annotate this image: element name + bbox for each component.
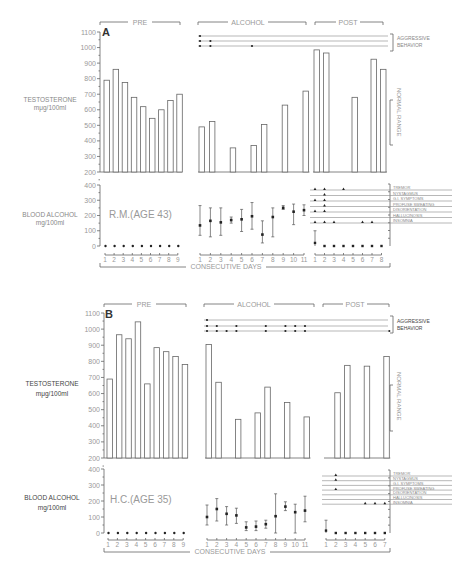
blood-alcohol-point	[159, 245, 161, 247]
testosterone-bar	[364, 366, 370, 458]
blood-alcohol-point	[335, 532, 337, 534]
day-tick-label: 10	[292, 541, 300, 548]
panel-letter-a: A	[102, 26, 110, 38]
testosterone-bars-b	[107, 322, 389, 458]
day-tick-label: 8	[380, 256, 384, 263]
symptom-label: PROFUSE SWEATING	[393, 202, 434, 207]
blood-alcohol-point	[230, 219, 233, 222]
blood-alcohol-point	[282, 207, 285, 210]
day-tick-label: 9	[176, 256, 180, 263]
day-tick-label: 2	[209, 256, 213, 263]
blood-alcohol-point	[235, 514, 238, 517]
day-tick-label: 4	[235, 541, 239, 548]
y-tick-label: 500	[84, 122, 96, 129]
blood-alcohol-point	[284, 505, 287, 508]
blood-alcohol-point	[325, 529, 327, 531]
y-tick-label: 400	[88, 466, 100, 473]
day-tick-label: 3	[225, 541, 229, 548]
day-tick-label: 1	[205, 541, 209, 548]
testosterone-unit-b: mμg/100ml	[36, 390, 69, 398]
day-tick-label: 7	[158, 256, 162, 263]
y-tick-label: 900	[84, 60, 96, 67]
testosterone-bars-a	[104, 50, 386, 172]
blood-alcohol-point	[177, 245, 179, 247]
testosterone-bar	[182, 365, 188, 458]
testosterone-bar	[163, 352, 169, 458]
y-tick-label: 300	[84, 197, 96, 204]
day-tick-label: 7	[261, 256, 265, 263]
aggressive-label-1-a: AGGRESSIVE	[397, 35, 430, 41]
symptom-marker	[314, 188, 317, 190]
testosterone-bar	[314, 50, 320, 172]
blood-alcohol-point	[255, 525, 258, 528]
day-tick-label: 6	[149, 256, 153, 263]
blood-alcohol-unit-a: mg/100ml	[36, 219, 65, 227]
blood-alcohol-point	[371, 245, 373, 247]
blood-alcohol-point	[136, 532, 138, 534]
testosterone-bar	[324, 53, 330, 172]
day-tick-label: 4	[354, 541, 358, 548]
symptom-marker	[383, 502, 386, 504]
day-tick-label: 2	[323, 256, 327, 263]
blood-alcohol-point	[199, 224, 202, 227]
blood-alcohol-point	[274, 515, 277, 518]
day-tick-label: 1	[103, 256, 107, 263]
testosterone-bar	[230, 148, 236, 172]
testosterone-bar	[126, 339, 132, 458]
y-tick-label: 600	[88, 390, 100, 397]
phase-alcohol-label: ALCOHOL	[231, 19, 265, 26]
blood-alcohol-point	[150, 245, 152, 247]
symptom-label: TREMOR	[393, 185, 410, 190]
panel-letter-b: B	[105, 308, 113, 320]
day-tick-label: 7	[264, 541, 268, 548]
y-tick-label: 200	[88, 498, 100, 505]
blood-alcohol-label-a: BLOOD ALCOHOL	[22, 211, 78, 218]
y-tick-label: 0	[92, 243, 96, 250]
symptom-marker	[323, 210, 326, 212]
day-tick-label: 8	[274, 541, 278, 548]
day-tick-label: 11	[302, 541, 309, 548]
testosterone-bar	[104, 80, 110, 172]
testosterone-bar	[251, 146, 257, 172]
day-tick-label: 7	[163, 541, 167, 548]
aggression-marker	[206, 330, 208, 332]
blood-alcohol-point	[354, 532, 356, 534]
blood-alcohol-point	[216, 508, 219, 511]
y-tick-label: 1100	[85, 310, 100, 317]
blood-alcohol-point	[384, 532, 386, 534]
aggression-marker	[199, 40, 201, 42]
panel-a: PRE ALCOHOL POST A 200300400500600700800…	[22, 18, 452, 270]
phase-pre-label-b: PRE	[137, 301, 152, 308]
symptom-marker	[371, 221, 374, 223]
y-tick-label: 800	[88, 358, 100, 365]
figure: PRE ALCOHOL POST A 200300400500600700800…	[0, 0, 454, 565]
subject-label-b: H.C.(AGE 35)	[110, 494, 172, 505]
y-tick-label: 700	[88, 374, 100, 381]
testosterone-bar	[235, 419, 241, 458]
withdrawal-symptoms-b: TREMORNYSTAGMUSG.I. SYMPTOMSPROFUSE SWEA…	[322, 470, 452, 533]
testosterone-bar	[209, 121, 215, 172]
blood-alcohol-point	[374, 532, 376, 534]
testosterone-bar	[216, 382, 222, 458]
day-tick-label: 9	[281, 256, 285, 263]
symptom-marker	[323, 204, 326, 206]
day-tick-label: 5	[244, 541, 248, 548]
blood-alcohol-point	[265, 523, 268, 526]
y-tick-label: 200	[88, 455, 100, 462]
symptom-marker	[314, 221, 317, 223]
aggression-marker	[235, 325, 237, 327]
testosterone-bar	[282, 105, 288, 172]
aggression-marker	[199, 45, 201, 47]
aggression-marker	[206, 325, 208, 327]
y-tick-label: 400	[84, 137, 96, 144]
symptom-marker	[333, 221, 336, 223]
day-tick-label: 5	[351, 256, 355, 263]
day-tick-label: 4	[130, 256, 134, 263]
blood-alcohol-point	[126, 532, 128, 534]
aggression-marker	[265, 325, 267, 327]
consecutive-days-label-a: CONSECUTIVE DAYS	[190, 263, 261, 270]
blood-alcohol-point	[272, 216, 275, 219]
symptom-marker	[374, 502, 377, 504]
symptom-label: INSOMNIA	[393, 500, 413, 505]
day-tick-label: 8	[271, 256, 275, 263]
